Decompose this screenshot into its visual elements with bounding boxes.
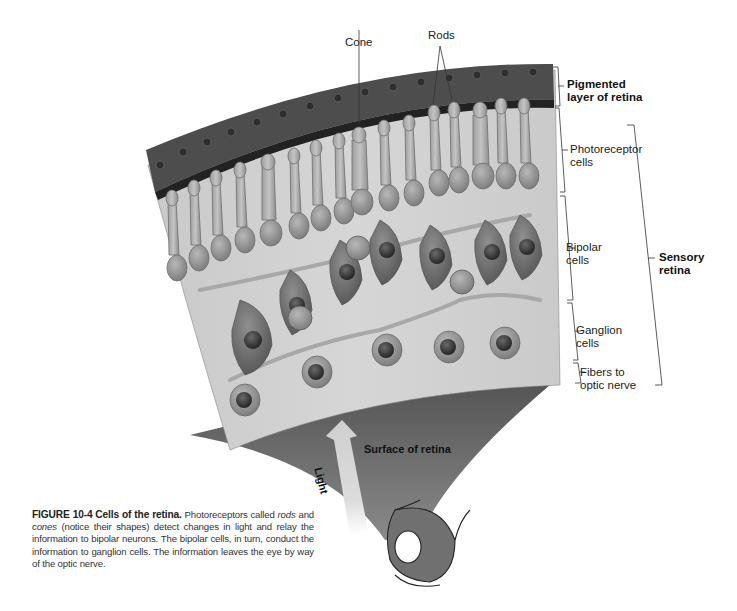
label-fibers-to-optic-nerve: Fibers to optic nerve — [580, 366, 636, 392]
label-cone: Cone — [345, 36, 373, 49]
figure-number: FIGURE 10-4 — [32, 509, 92, 520]
figure-title: Cells of the retina. — [95, 509, 181, 520]
label-bipolar-cells: Bipolar cells — [566, 241, 602, 267]
figure-caption: FIGURE 10-4 Cells of the retina. Photore… — [32, 509, 314, 570]
eye-icon — [387, 500, 470, 586]
label-sensory-retina: Sensory retina — [659, 251, 704, 277]
label-photoreceptor-cells: Photoreceptor cells — [570, 143, 642, 169]
label-ganglion-cells: Ganglion cells — [576, 324, 622, 350]
label-pigmented-layer: Pigmented layer of retina — [567, 78, 642, 104]
label-surface-of-retina: Surface of retina — [364, 443, 451, 456]
label-rods: Rods — [428, 29, 455, 42]
